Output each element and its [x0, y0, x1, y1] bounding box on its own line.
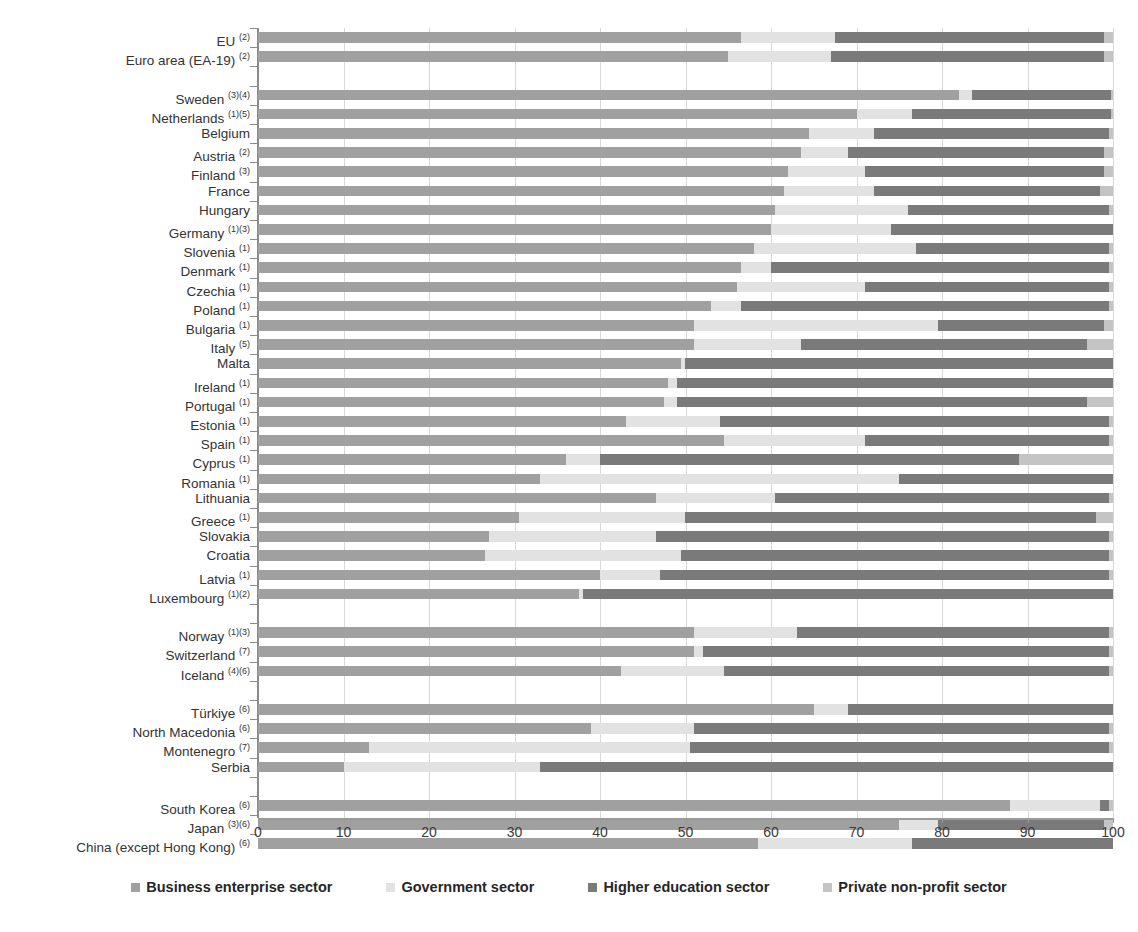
bar-segment-business-enterprise-sector[interactable] — [258, 51, 728, 62]
stacked-bar[interactable] — [258, 186, 1113, 197]
bar-segment-government-sector[interactable] — [600, 570, 660, 581]
bar-segment-private-non-profit-sector[interactable] — [1111, 109, 1113, 120]
bar-segment-business-enterprise-sector[interactable] — [258, 166, 788, 177]
bar-segment-business-enterprise-sector[interactable] — [258, 397, 664, 408]
bar-segment-private-non-profit-sector[interactable] — [1087, 339, 1113, 350]
stacked-bar[interactable] — [258, 301, 1113, 312]
bar-segment-government-sector[interactable] — [784, 186, 874, 197]
bar-segment-private-non-profit-sector[interactable] — [1109, 243, 1113, 254]
stacked-bar[interactable] — [258, 454, 1113, 465]
bar-segment-private-non-profit-sector[interactable] — [1096, 512, 1113, 523]
bar-segment-private-non-profit-sector[interactable] — [1111, 90, 1113, 101]
bar-segment-business-enterprise-sector[interactable] — [258, 550, 485, 561]
bar-segment-higher-education-sector[interactable] — [865, 166, 1104, 177]
bar-segment-business-enterprise-sector[interactable] — [258, 627, 694, 638]
bar-segment-business-enterprise-sector[interactable] — [258, 666, 621, 677]
stacked-bar[interactable] — [258, 493, 1113, 504]
bar-segment-higher-education-sector[interactable] — [899, 474, 1113, 485]
bar-segment-business-enterprise-sector[interactable] — [258, 358, 681, 369]
stacked-bar[interactable] — [258, 435, 1113, 446]
bar-segment-business-enterprise-sector[interactable] — [258, 570, 600, 581]
bar-segment-business-enterprise-sector[interactable] — [258, 32, 741, 43]
bar-segment-government-sector[interactable] — [626, 416, 720, 427]
stacked-bar[interactable] — [258, 90, 1113, 101]
bar-segment-private-non-profit-sector[interactable] — [1109, 550, 1113, 561]
bar-segment-private-non-profit-sector[interactable] — [1104, 166, 1113, 177]
bar-segment-government-sector[interactable] — [668, 378, 677, 389]
bar-segment-government-sector[interactable] — [775, 205, 908, 216]
bar-segment-private-non-profit-sector[interactable] — [1109, 627, 1113, 638]
bar-segment-business-enterprise-sector[interactable] — [258, 90, 959, 101]
bar-segment-higher-education-sector[interactable] — [724, 666, 1109, 677]
bar-segment-government-sector[interactable] — [369, 742, 690, 753]
stacked-bar[interactable] — [258, 589, 1113, 600]
stacked-bar[interactable] — [258, 339, 1113, 350]
bar-segment-business-enterprise-sector[interactable] — [258, 762, 344, 773]
bar-segment-business-enterprise-sector[interactable] — [258, 128, 809, 139]
bar-segment-business-enterprise-sector[interactable] — [258, 301, 711, 312]
stacked-bar[interactable] — [258, 32, 1113, 43]
bar-segment-private-non-profit-sector[interactable] — [1109, 205, 1113, 216]
bar-segment-higher-education-sector[interactable] — [741, 301, 1109, 312]
bar-segment-higher-education-sector[interactable] — [677, 397, 1087, 408]
bar-segment-government-sector[interactable] — [737, 282, 865, 293]
bar-segment-business-enterprise-sector[interactable] — [258, 243, 754, 254]
bar-segment-government-sector[interactable] — [741, 262, 771, 273]
bar-segment-business-enterprise-sector[interactable] — [258, 493, 656, 504]
stacked-bar[interactable] — [258, 474, 1113, 485]
bar-segment-higher-education-sector[interactable] — [681, 550, 1109, 561]
bar-segment-higher-education-sector[interactable] — [801, 339, 1087, 350]
bar-segment-government-sector[interactable] — [344, 762, 541, 773]
bar-segment-business-enterprise-sector[interactable] — [258, 435, 724, 446]
bar-segment-private-non-profit-sector[interactable] — [1109, 723, 1113, 734]
bar-segment-government-sector[interactable] — [728, 51, 831, 62]
bar-segment-business-enterprise-sector[interactable] — [258, 205, 775, 216]
stacked-bar[interactable] — [258, 358, 1113, 369]
bar-segment-higher-education-sector[interactable] — [938, 320, 1105, 331]
bar-segment-private-non-profit-sector[interactable] — [1104, 51, 1113, 62]
bar-segment-government-sector[interactable] — [959, 90, 972, 101]
bar-segment-private-non-profit-sector[interactable] — [1109, 742, 1113, 753]
legend-item[interactable]: Private non-profit sector — [823, 879, 1006, 895]
stacked-bar[interactable] — [258, 550, 1113, 561]
bar-segment-higher-education-sector[interactable] — [908, 205, 1109, 216]
bar-segment-higher-education-sector[interactable] — [685, 358, 1113, 369]
bar-segment-private-non-profit-sector[interactable] — [1109, 666, 1113, 677]
bar-segment-business-enterprise-sector[interactable] — [258, 531, 489, 542]
stacked-bar[interactable] — [258, 666, 1113, 677]
bar-segment-government-sector[interactable] — [656, 493, 776, 504]
bar-segment-private-non-profit-sector[interactable] — [1109, 416, 1113, 427]
bar-segment-business-enterprise-sector[interactable] — [258, 378, 668, 389]
bar-segment-government-sector[interactable] — [664, 397, 677, 408]
bar-segment-business-enterprise-sector[interactable] — [258, 339, 694, 350]
bar-segment-private-non-profit-sector[interactable] — [1109, 531, 1113, 542]
bar-segment-higher-education-sector[interactable] — [720, 416, 1109, 427]
stacked-bar[interactable] — [258, 378, 1113, 389]
stacked-bar[interactable] — [258, 627, 1113, 638]
bar-segment-business-enterprise-sector[interactable] — [258, 320, 694, 331]
bar-segment-private-non-profit-sector[interactable] — [1109, 570, 1113, 581]
bar-segment-government-sector[interactable] — [621, 666, 724, 677]
bar-segment-private-non-profit-sector[interactable] — [1019, 454, 1113, 465]
bar-segment-higher-education-sector[interactable] — [835, 32, 1104, 43]
bar-segment-government-sector[interactable] — [1010, 800, 1100, 811]
bar-segment-government-sector[interactable] — [694, 320, 938, 331]
bar-segment-business-enterprise-sector[interactable] — [258, 723, 591, 734]
bar-segment-private-non-profit-sector[interactable] — [1109, 301, 1113, 312]
bar-segment-private-non-profit-sector[interactable] — [1104, 32, 1113, 43]
bar-segment-government-sector[interactable] — [724, 435, 865, 446]
stacked-bar[interactable] — [258, 646, 1113, 657]
stacked-bar[interactable] — [258, 147, 1113, 158]
stacked-bar[interactable] — [258, 320, 1113, 331]
legend-item[interactable]: Business enterprise sector — [131, 879, 332, 895]
bar-segment-higher-education-sector[interactable] — [874, 186, 1101, 197]
bar-segment-higher-education-sector[interactable] — [685, 512, 1095, 523]
bar-segment-higher-education-sector[interactable] — [583, 589, 1113, 600]
bar-segment-business-enterprise-sector[interactable] — [258, 646, 694, 657]
bar-segment-business-enterprise-sector[interactable] — [258, 416, 626, 427]
stacked-bar[interactable] — [258, 282, 1113, 293]
stacked-bar[interactable] — [258, 397, 1113, 408]
bar-segment-government-sector[interactable] — [814, 704, 848, 715]
bar-segment-government-sector[interactable] — [540, 474, 899, 485]
bar-segment-private-non-profit-sector[interactable] — [1100, 186, 1113, 197]
